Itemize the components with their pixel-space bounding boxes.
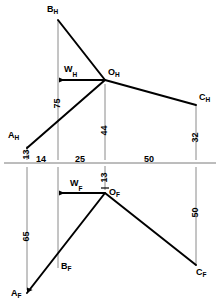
point-label-AF: AF xyxy=(11,289,21,298)
point-label-OH: OH xyxy=(108,68,120,77)
horizontal-view-body xyxy=(27,20,196,148)
diagram-canvas: BH OH AH CH OF BF AF CF WH WF 14 25 50 1… xyxy=(0,0,220,308)
point-label-BH: BH xyxy=(47,5,58,14)
point-label-CH: CH xyxy=(199,93,210,102)
dimension-50-right: 50 xyxy=(191,207,200,217)
frontal-view-body xyxy=(27,193,196,293)
point-label-BF: BF xyxy=(61,262,71,271)
dimension-75: 75 xyxy=(53,98,62,108)
force-label-WF: WF xyxy=(70,179,82,190)
dimension-50-top: 50 xyxy=(144,155,154,164)
dimension-14: 14 xyxy=(36,155,46,164)
point-label-OF: OF xyxy=(109,188,120,197)
segment-OH-CH xyxy=(105,80,196,105)
dimension-13-lower: 13 xyxy=(100,172,109,182)
point-label-AH: AH xyxy=(8,131,19,140)
dimension-65: 65 xyxy=(22,231,31,241)
dimension-32: 32 xyxy=(191,132,200,142)
dimension-44: 44 xyxy=(100,125,109,135)
projector-lines xyxy=(27,20,196,268)
segment-AH-OH xyxy=(27,80,105,148)
force-label-WH: WH xyxy=(64,65,77,76)
segment-OF-CF xyxy=(105,193,196,265)
dimension-13-upper: 13 xyxy=(22,149,31,159)
segment-AF-OF xyxy=(27,193,105,293)
dimension-25: 25 xyxy=(75,155,85,164)
point-label-CF: CF xyxy=(196,268,206,277)
projection-drawing xyxy=(0,0,220,308)
